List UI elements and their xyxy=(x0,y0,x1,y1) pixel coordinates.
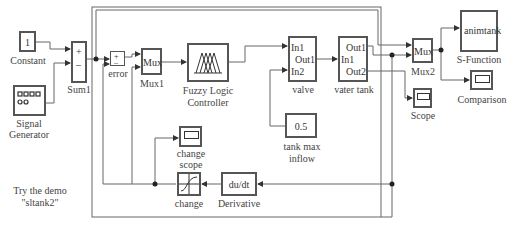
membership-functions-icon xyxy=(189,45,227,80)
scope-screen-icon xyxy=(475,75,490,83)
mux2-label: Mux2 xyxy=(407,66,439,77)
fuzzy-label-1: Fuzzy Logic xyxy=(178,85,238,96)
mux1-label: Mux1 xyxy=(136,78,168,89)
change-scope-label-1: change xyxy=(172,148,210,159)
scope-screen-icon xyxy=(417,93,430,100)
change-label: change xyxy=(170,198,208,209)
change-scope-label-2: scope xyxy=(172,159,210,170)
s-curve-icon xyxy=(179,174,199,194)
fuzzy-label-2: Controller xyxy=(178,97,238,108)
comparison-scope-block[interactable] xyxy=(470,70,493,90)
mux1-block[interactable]: Mux xyxy=(141,48,162,75)
valve-in2-port: In2 xyxy=(291,67,304,77)
valve-out1-port: Out1 xyxy=(295,55,315,65)
demo-note-line2: "sltank2" xyxy=(6,197,74,208)
animtank-sfunction-block[interactable]: animtank xyxy=(460,10,498,52)
change-block[interactable] xyxy=(177,172,201,196)
scope-block[interactable] xyxy=(413,88,432,108)
tank-max-inflow-block[interactable]: 0.5 xyxy=(285,113,317,138)
sum1-minus-sign: – xyxy=(76,60,81,70)
derivative-text: du/dt xyxy=(223,179,255,190)
constant-label: Constant xyxy=(7,55,49,66)
sum1-block[interactable]: + – xyxy=(71,41,87,83)
signal-generator-label-1: Signal xyxy=(6,118,52,129)
tank-in1-port: In1 xyxy=(341,55,354,65)
error-minus-sign: – xyxy=(114,58,118,68)
tank-max-inflow-value: 0.5 xyxy=(287,120,315,131)
tank-max-inflow-label-2: inflow xyxy=(278,153,326,164)
error-sum-block[interactable]: + – xyxy=(110,51,125,66)
signal-generator-label-2: Generator xyxy=(6,129,52,140)
scope-screen-icon xyxy=(184,131,199,139)
sum1-plus-sign: + xyxy=(76,47,82,57)
valve-in1-port: In1 xyxy=(291,43,304,53)
signal-generator-icon xyxy=(15,87,44,114)
error-label: error xyxy=(103,68,133,79)
fuzzy-logic-controller-block[interactable] xyxy=(187,43,229,82)
animtank-text: animtank xyxy=(464,26,501,36)
water-tank-block[interactable]: Out1 In1 Out2 xyxy=(338,36,368,82)
tank-max-inflow-label-1: tank max xyxy=(278,141,326,152)
demo-note-line1: Try the demo xyxy=(6,185,74,196)
scope-label: Scope xyxy=(405,110,441,121)
comparison-label: Comparison xyxy=(455,94,509,105)
tank-out1-port: Out1 xyxy=(346,43,366,53)
derivative-label: Derivative xyxy=(213,198,265,209)
sfunction-label: S-Function xyxy=(450,54,508,65)
constant-block[interactable]: 1 xyxy=(19,31,36,52)
simulink-diagram: 1 Constant + – Sum1 Signal Generator Try… xyxy=(0,0,517,227)
tank-out2-port: Out2 xyxy=(346,67,366,77)
valve-label: valve xyxy=(283,84,323,95)
signal-generator-block[interactable] xyxy=(13,85,46,116)
mux1-text: Mux xyxy=(143,56,160,67)
sum1-label: Sum1 xyxy=(62,84,96,95)
valve-block[interactable]: In1 Out1 In2 xyxy=(288,36,317,82)
mux2-block[interactable]: Mux xyxy=(412,38,433,63)
water-tank-label: vater tank xyxy=(330,84,378,95)
derivative-block[interactable]: du/dt xyxy=(221,172,257,196)
mux2-text: Mux xyxy=(414,45,431,56)
constant-value: 1 xyxy=(21,36,34,47)
change-scope-block[interactable] xyxy=(179,126,202,147)
